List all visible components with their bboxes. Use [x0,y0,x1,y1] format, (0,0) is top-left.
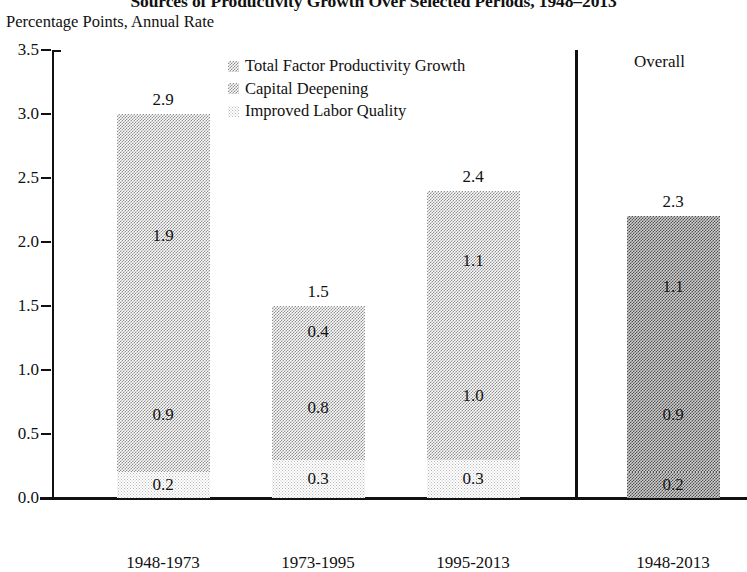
bar-segment-value-label: 0.8 [307,398,328,418]
x-axis-category-label: 1995-2013 [427,553,520,572]
bar-group[interactable]: 0.30.80.41.51973-1995 [272,50,365,498]
bar-segment-value-label: 1.0 [462,386,483,406]
y-axis-tick-mark [41,433,51,435]
bar-stack[interactable]: 0.20.91.9 [117,114,210,498]
y-axis-tick-mark [41,177,51,179]
y-axis-tick-mark [41,497,51,499]
chart-subtitle: Percentage Points, Annual Rate [6,12,214,32]
bar-group[interactable]: 0.20.91.92.91948-1973 [117,50,210,498]
y-axis-tick-mark [41,369,51,371]
bar-segment-value-label: 1.1 [662,277,683,297]
bar-segment-value-label: 1.9 [152,226,173,246]
bar-segment[interactable]: 0.4 [272,306,365,357]
bar-segment[interactable]: 1.9 [117,114,210,357]
x-axis-category-label: 1973-1995 [272,553,365,572]
y-axis-tick-label: 3.5 [18,40,39,60]
y-axis-tick-mark [41,113,51,115]
x-axis-category-label: 1948-2013 [627,553,720,572]
bar-group[interactable]: 0.20.91.12.31948-2013 [627,50,720,498]
bar-group[interactable]: 0.31.01.12.41995-2013 [427,50,520,498]
bar-stack[interactable]: 0.30.80.4 [272,306,365,498]
bar-total-label: 2.9 [117,90,210,110]
y-axis-tick-mark [41,241,51,243]
bar-segment[interactable]: 0.2 [117,472,210,498]
bar-segment[interactable]: 1.1 [627,216,720,357]
bar-total-label: 1.5 [272,282,365,302]
bar-segment[interactable]: 0.8 [272,357,365,459]
y-axis-tick-label: 2.0 [18,232,39,252]
page-title: Sources of Productivity Growth Over Sele… [0,0,747,12]
bar-segment-value-label: 0.2 [152,475,173,495]
bar-segment-value-label: 0.4 [307,322,328,342]
bar-segment[interactable]: 1.1 [427,191,520,332]
bar-stack[interactable]: 0.20.91.1 [627,216,720,498]
bar-segment-value-label: 0.9 [662,405,683,425]
bar-segment[interactable]: 0.2 [627,472,720,498]
bar-segment-value-label: 0.9 [152,405,173,425]
bar-segment[interactable]: 0.9 [627,357,720,472]
bar-total-label: 2.3 [627,192,720,212]
bar-total-label: 2.4 [427,167,520,187]
bar-stack[interactable]: 0.31.01.1 [427,191,520,498]
y-axis-tick-label: 0.5 [18,424,39,444]
bar-segment-value-label: 1.1 [462,251,483,271]
bar-segment-value-label: 0.3 [307,469,328,489]
y-axis-tick-label: 2.5 [18,168,39,188]
bar-segment[interactable]: 0.3 [272,460,365,498]
y-axis-tick-label: 3.0 [18,104,39,124]
y-axis-tick-label: 0.0 [18,488,39,508]
bar-segment-value-label: 0.3 [462,469,483,489]
y-axis-tick-mark [41,305,51,307]
y-axis-tick-mark [41,49,51,51]
bar-segment[interactable]: 1.0 [427,332,520,460]
y-axis-tick-label: 1.0 [18,360,39,380]
plot-area: 3.53.02.52.01.51.00.50.0 0.20.91.92.9194… [53,50,741,498]
bar-segment[interactable]: 0.3 [427,460,520,498]
x-axis-category-label: 1948-1973 [117,553,210,572]
bar-segment[interactable]: 0.9 [117,357,210,472]
y-axis-tick-label: 1.5 [18,296,39,316]
bar-segment-value-label: 0.2 [662,475,683,495]
